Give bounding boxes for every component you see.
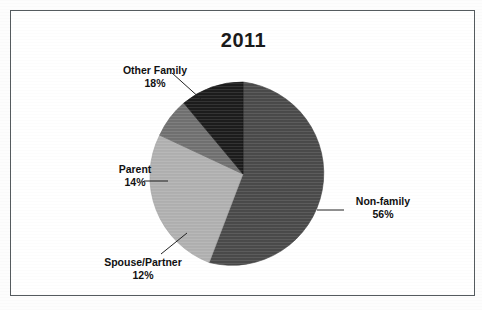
pie-label-other-family-percent: 18% [107,77,203,90]
pie-label-parent: Parent 14% [99,163,171,189]
pie-label-other-family-name: Other Family [107,64,203,77]
pie-label-spouse-partner: Spouse/Partner 12% [81,256,205,282]
scanned-page-background: 2011 [0,0,482,310]
pie-label-parent-name: Parent [99,163,171,176]
pie-label-spouse-partner-name: Spouse/Partner [81,256,205,269]
pie-label-non-family: Non-family 56% [340,195,426,221]
pie-label-parent-percent: 14% [99,176,171,189]
pie-label-spouse-partner-percent: 12% [81,269,205,282]
pie-label-other-family: Other Family 18% [107,64,203,90]
pie-chart-area: Other Family 18% Parent 14% Spouse/Partn… [11,11,476,297]
pie-label-non-family-name: Non-family [340,195,426,208]
pie-label-non-family-percent: 56% [340,208,426,221]
chart-frame: 2011 [10,10,475,296]
pie-chart-svg [11,11,476,297]
